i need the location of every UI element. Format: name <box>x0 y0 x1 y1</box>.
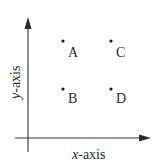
y-axis-label: y-axis <box>8 66 23 101</box>
point-d-dot <box>109 87 112 90</box>
point-d-label: D <box>116 91 126 106</box>
point-c-label: C <box>116 45 125 60</box>
point-d: D <box>109 87 126 106</box>
point-b: B <box>61 87 77 106</box>
y-axis-arrow-icon <box>25 17 32 29</box>
point-a: A <box>61 39 79 60</box>
y-axis-label-rest: -axis <box>8 66 23 93</box>
x-axis-label-rest: -axis <box>78 147 105 162</box>
point-b-label: B <box>68 91 77 106</box>
coordinate-diagram: A C B D x-axis y-axis <box>0 0 159 166</box>
point-a-dot <box>61 39 64 42</box>
point-b-dot <box>61 87 64 90</box>
point-c: C <box>109 39 125 60</box>
x-axis-arrow-icon <box>139 135 151 142</box>
point-a-label: A <box>68 45 79 60</box>
y-axis <box>25 17 32 152</box>
point-c-dot <box>109 39 112 42</box>
x-axis <box>15 135 151 142</box>
x-axis-label: x-axis <box>71 147 105 162</box>
